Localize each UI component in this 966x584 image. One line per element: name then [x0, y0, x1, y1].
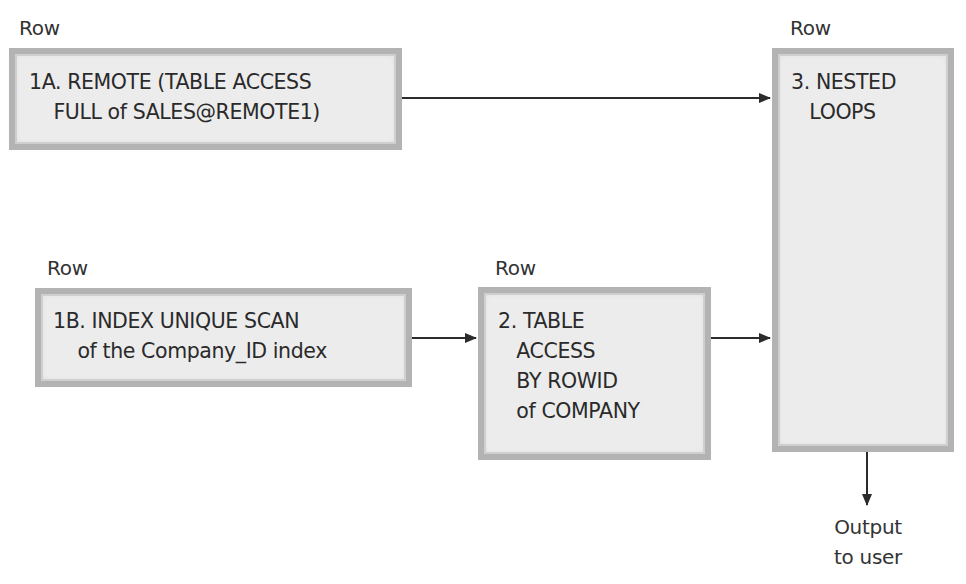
node-1b-index-unique-scan: 1B. INDEX UNIQUE SCAN of the Company_ID … [35, 288, 412, 387]
node-1a-line-1: 1A. REMOTE (TABLE ACCESS [29, 67, 311, 97]
row-label-1b: Row [47, 256, 88, 280]
node-1a-remote-table-access: 1A. REMOTE (TABLE ACCESS FULL of SALES@R… [9, 48, 402, 150]
row-label-3: Row [790, 16, 831, 40]
node-1b-line-1: 1B. INDEX UNIQUE SCAN [53, 306, 299, 336]
node-2-line-4: of COMPANY [498, 396, 640, 426]
node-2-line-1: 2. TABLE [498, 306, 584, 336]
output-line-2: to user [826, 542, 910, 572]
row-label-1a: Row [19, 16, 60, 40]
row-label-2: Row [495, 256, 536, 280]
node-2-line-2: ACCESS [498, 336, 595, 366]
node-2-line-3: BY ROWID [498, 366, 618, 396]
output-line-1: Output [826, 512, 910, 542]
node-1a-line-2: FULL of SALES@REMOTE1) [29, 97, 320, 127]
node-3-line-2: LOOPS [791, 97, 876, 127]
node-3-nested-loops: 3. NESTED LOOPS [772, 48, 954, 452]
output-to-user-label: Output to user [826, 512, 910, 572]
node-3-line-1: 3. NESTED [791, 67, 896, 97]
node-2-table-access-by-rowid: 2. TABLE ACCESS BY ROWID of COMPANY [478, 287, 711, 460]
node-1b-line-2: of the Company_ID index [53, 336, 327, 366]
